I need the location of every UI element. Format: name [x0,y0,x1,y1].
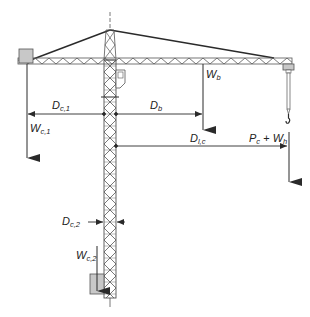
counterjib-counterweight [19,49,33,63]
operator-cab [116,70,125,88]
label-dc1: Dc,1 [52,100,70,113]
label-wc2: Wc,2 [76,250,96,263]
jib [18,58,292,64]
label-pc-wh: Pc + Wh [249,133,287,146]
label-db: Db [150,100,162,113]
mast [104,30,116,298]
label-wb: Wb [206,69,221,82]
crane-diagram [0,0,310,317]
trolley-hook [283,64,294,123]
tie-lines [28,30,274,61]
label-wc1: Wc,1 [30,123,50,136]
label-dlc: Dl,c [190,133,205,146]
label-dc2: Dc,2 [62,216,80,229]
